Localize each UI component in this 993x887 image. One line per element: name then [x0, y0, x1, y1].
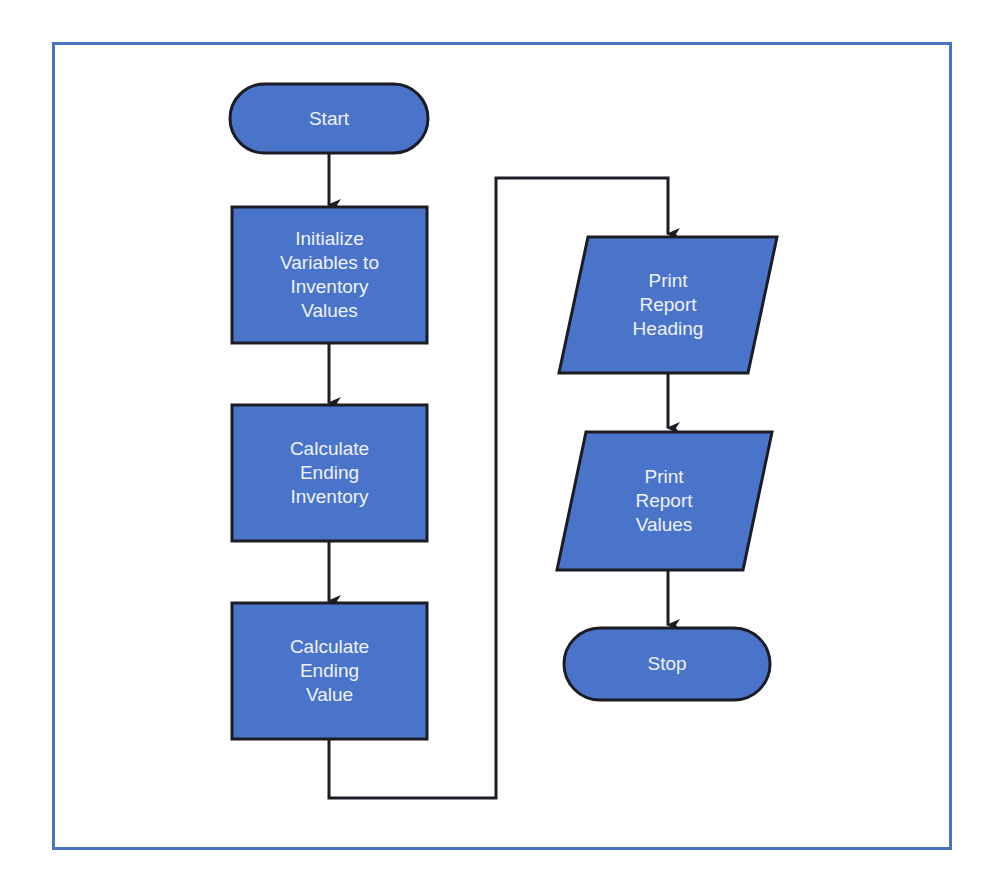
calc-inventory-label: Calculate Ending Inventory [232, 405, 427, 541]
calc-value-label: Calculate Ending Value [232, 603, 427, 739]
stop-label: Stop [564, 628, 770, 700]
print-heading-label: Print Report Heading [573, 237, 763, 373]
flowchart-canvas [0, 0, 993, 887]
start-label: Start [230, 84, 428, 153]
init-label: Initialize Variables to Inventory Values [232, 207, 427, 343]
print-values-label: Print Report Values [571, 432, 757, 570]
